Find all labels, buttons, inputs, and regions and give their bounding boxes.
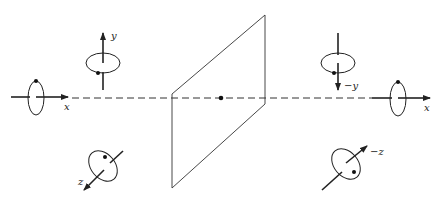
right-neg-z-rotation-icon xyxy=(322,143,367,190)
left-z-label: z xyxy=(77,176,84,187)
left-z-rotation-icon xyxy=(83,145,123,190)
left-x-rotation-icon xyxy=(11,79,68,115)
left-y-label: y xyxy=(110,30,117,41)
right-neg-y-label: −y xyxy=(344,80,358,91)
inversion-center-dot xyxy=(219,96,224,101)
left-x-label: x xyxy=(64,101,70,112)
left-y-rotation-icon xyxy=(86,33,120,90)
mirror-plane xyxy=(172,15,265,188)
diagram-canvas: x y z −y x −z xyxy=(0,0,440,205)
right-x-rotation-icon xyxy=(372,80,430,116)
right-x-label: x xyxy=(424,102,430,113)
right-neg-z-label: −z xyxy=(370,146,384,157)
